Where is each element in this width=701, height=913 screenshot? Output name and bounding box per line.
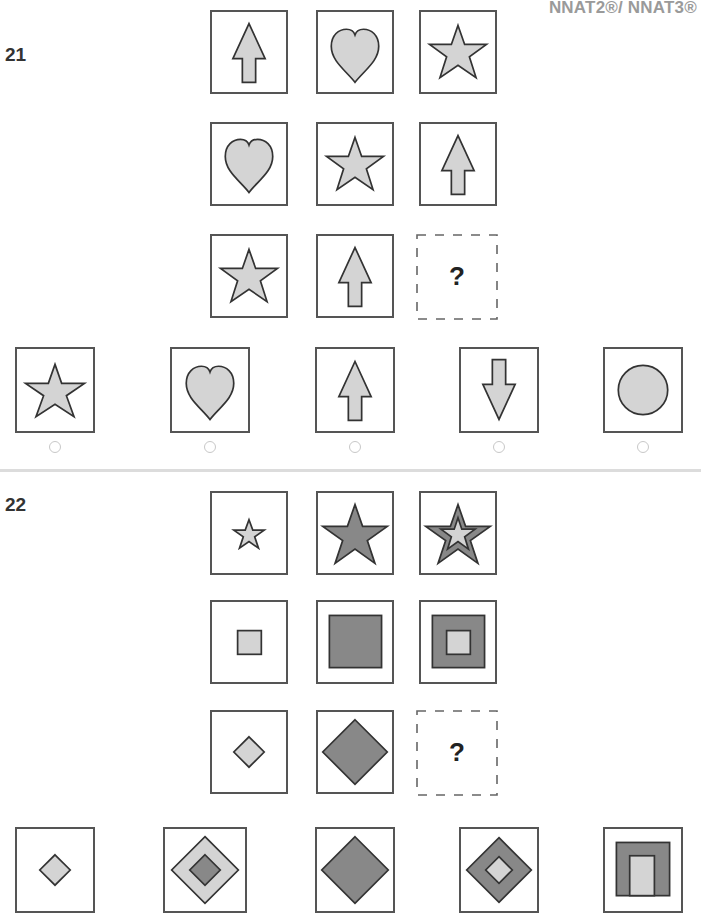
arrow-up-icon bbox=[317, 349, 393, 431]
large-square-icon bbox=[318, 602, 392, 682]
answer-option-dark-diamond-with-light-inside[interactable] bbox=[459, 827, 539, 913]
matrix-cell-large-dark-square bbox=[316, 600, 394, 684]
question-mark: ? bbox=[416, 737, 498, 768]
question-number-22: 22 bbox=[5, 494, 26, 516]
answer-option-circle[interactable] bbox=[603, 347, 683, 433]
matrix-cell-arrow-up bbox=[210, 10, 288, 94]
heart-icon bbox=[172, 349, 248, 431]
nested-diamond-icon bbox=[165, 829, 245, 911]
matrix-cell-small-light-star bbox=[210, 491, 288, 575]
missing-cell: ? bbox=[416, 234, 498, 320]
question-mark: ? bbox=[416, 261, 498, 292]
large-diamond-icon bbox=[317, 829, 393, 911]
small-star-icon bbox=[212, 493, 286, 573]
answer-option-dark-square-with-light-rectangle[interactable] bbox=[603, 827, 683, 913]
matrix-cell-heart bbox=[316, 10, 394, 94]
answer-option-arrow-up[interactable] bbox=[315, 347, 395, 433]
matrix-cell-small-light-square bbox=[210, 600, 288, 684]
heart-icon bbox=[318, 12, 392, 92]
section-divider bbox=[0, 469, 701, 472]
missing-cell: ? bbox=[416, 710, 498, 796]
matrix-cell-small-light-diamond bbox=[210, 710, 288, 794]
arrow-up-icon bbox=[421, 124, 495, 204]
star-icon bbox=[212, 236, 286, 316]
matrix-cell-large-dark-diamond bbox=[316, 710, 394, 794]
answer-radio-4[interactable] bbox=[493, 441, 505, 453]
answer-option-heart[interactable] bbox=[170, 347, 250, 433]
matrix-cell-star bbox=[210, 234, 288, 318]
question-number-21: 21 bbox=[5, 44, 26, 66]
matrix-cell-nested-square bbox=[419, 600, 497, 684]
large-star-icon bbox=[318, 493, 392, 573]
matrix-cell-star bbox=[316, 122, 394, 206]
star-icon bbox=[17, 349, 93, 431]
matrix-cell-heart bbox=[210, 122, 288, 206]
matrix-cell-arrow-up bbox=[316, 234, 394, 318]
answer-radio-2[interactable] bbox=[204, 441, 216, 453]
small-diamond-icon bbox=[212, 712, 286, 792]
test-header-label: NNAT2®/ NNAT3® bbox=[549, 0, 697, 18]
nested-square-icon bbox=[421, 602, 495, 682]
answer-option-light-diamond-with-dark-inside[interactable] bbox=[163, 827, 247, 913]
circle-icon bbox=[605, 349, 681, 431]
small-square-icon bbox=[212, 602, 286, 682]
large-diamond-icon bbox=[318, 712, 392, 792]
answer-option-star[interactable] bbox=[15, 347, 95, 433]
answer-radio-5[interactable] bbox=[637, 441, 649, 453]
answer-option-arrow-down[interactable] bbox=[459, 347, 539, 433]
arrow-up-icon bbox=[212, 12, 286, 92]
matrix-cell-star bbox=[419, 10, 497, 94]
answer-option-small-light-diamond[interactable] bbox=[15, 827, 95, 913]
small-diamond-icon bbox=[17, 829, 93, 911]
arrow-down-icon bbox=[461, 349, 537, 431]
nested-diamond-icon bbox=[461, 829, 537, 911]
star-icon bbox=[318, 124, 392, 204]
matrix-cell-large-dark-star bbox=[316, 491, 394, 575]
answer-option-large-dark-diamond[interactable] bbox=[315, 827, 395, 913]
nested-square-icon bbox=[605, 829, 681, 911]
matrix-cell-arrow-up bbox=[419, 122, 497, 206]
answer-radio-3[interactable] bbox=[349, 441, 361, 453]
answer-radio-1[interactable] bbox=[49, 441, 61, 453]
heart-icon bbox=[212, 124, 286, 204]
nested-star-icon bbox=[421, 493, 495, 573]
matrix-cell-nested-star bbox=[419, 491, 497, 575]
arrow-up-icon bbox=[318, 236, 392, 316]
star-icon bbox=[421, 12, 495, 92]
